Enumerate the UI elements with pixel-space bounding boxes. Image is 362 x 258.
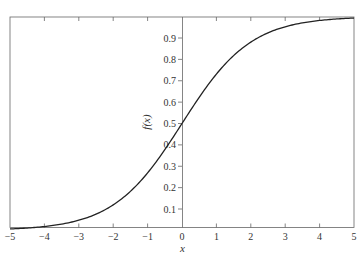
y-tick-label: 0.2: [164, 182, 177, 193]
x-tick-label: −4: [39, 231, 50, 242]
x-tick-label: 2: [248, 231, 253, 242]
plot-frame: [10, 17, 354, 228]
x-tick-label: −5: [5, 231, 16, 242]
y-tick-label: 0.6: [164, 97, 177, 108]
x-axis-ticks: −5−4−3−2−1012345: [5, 17, 357, 242]
y-tick-label: 0.3: [164, 161, 177, 172]
y-axis-ticks: 0.10.20.30.40.50.60.70.80.9: [164, 33, 183, 215]
x-tick-label: 3: [283, 231, 288, 242]
x-tick-label: −3: [73, 231, 84, 242]
y-tick-label: 0.8: [164, 54, 177, 65]
x-tick-label: 4: [317, 231, 322, 242]
sigmoid-chart: −5−4−3−2−1012345 0.10.20.30.40.50.60.70.…: [0, 0, 362, 258]
x-tick-label: 1: [214, 231, 219, 242]
y-tick-label: 0.1: [164, 204, 177, 215]
x-tick-label: −2: [108, 231, 119, 242]
sigmoid-curve: [10, 18, 354, 229]
y-tick-label: 0.9: [164, 33, 177, 44]
y-tick-label: 0.5: [164, 118, 177, 129]
x-tick-label: −1: [142, 231, 153, 242]
y-tick-label: 0.7: [164, 75, 177, 86]
x-axis-label: x: [179, 242, 185, 254]
x-tick-label: 5: [352, 231, 357, 242]
y-axis-label: f(x): [140, 114, 153, 130]
x-tick-label: 0: [180, 231, 185, 242]
